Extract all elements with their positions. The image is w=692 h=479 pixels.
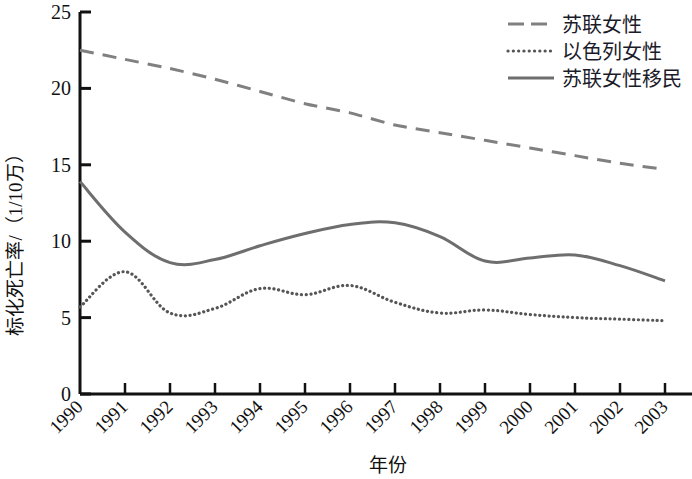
x-tick-label-2001: 2001 <box>540 396 582 438</box>
chart-figure: 0510152025 19901991199219931994199519961… <box>0 0 692 479</box>
y-tick-label-25: 25 <box>51 1 71 23</box>
x-tick-label-1997: 1997 <box>360 396 402 438</box>
x-axis-tick-labels: 1990199119921993199419951996199719981999… <box>45 396 672 438</box>
x-tick-label-1990: 1990 <box>45 396 87 438</box>
x-axis-title: 年份 <box>369 455 407 476</box>
y-axis-title: 标化死亡率/（1/10万） <box>5 144 26 335</box>
x-tick-label-2000: 2000 <box>495 396 537 438</box>
data-series-layer <box>80 50 665 320</box>
x-tick-label-1994: 1994 <box>225 396 267 438</box>
chart-canvas: 0510152025 19901991199219931994199519961… <box>0 0 692 479</box>
chart-legend: 苏联女性以色列女性苏联女性移民 <box>508 14 682 90</box>
series-line-1 <box>80 272 665 321</box>
x-tick-label-1993: 1993 <box>180 396 222 438</box>
series-line-2 <box>80 182 665 281</box>
x-tick-label-1995: 1995 <box>270 396 312 438</box>
x-tick-label-1996: 1996 <box>315 396 357 438</box>
y-tick-label-15: 15 <box>51 154 71 176</box>
x-tick-label-1992: 1992 <box>135 396 177 438</box>
y-axis-tick-labels: 0510152025 <box>51 1 71 405</box>
y-tick-label-10: 10 <box>51 230 71 252</box>
x-tick-label-2003: 2003 <box>630 396 672 438</box>
x-tick-label-2002: 2002 <box>585 396 627 438</box>
y-axis-ticks <box>80 12 91 394</box>
x-tick-label-1998: 1998 <box>405 396 447 438</box>
y-tick-label-20: 20 <box>51 77 71 99</box>
x-tick-label-1991: 1991 <box>90 396 132 438</box>
legend-label-2: 苏联女性移民 <box>562 68 682 90</box>
x-axis-ticks <box>125 383 665 394</box>
x-tick-label-1999: 1999 <box>450 396 492 438</box>
y-tick-label-5: 5 <box>61 307 71 329</box>
legend-label-0: 苏联女性 <box>562 14 642 36</box>
legend-label-1: 以色列女性 <box>562 41 662 63</box>
